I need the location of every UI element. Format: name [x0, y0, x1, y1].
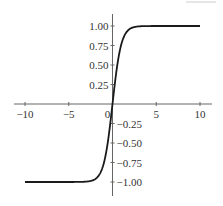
x-tick-label: −10 — [16, 108, 34, 120]
y-tick-label: −0.25 — [117, 118, 143, 130]
x-tick-label: 10 — [195, 108, 207, 120]
tanh-chart: −10−505101.000.750.500.25−0.25−0.50−0.75… — [0, 0, 223, 206]
x-tick-label: 0 — [105, 108, 111, 120]
y-tick-label: −0.50 — [117, 137, 143, 149]
y-tick-label: 0.75 — [89, 40, 109, 52]
y-tick-label: 0.50 — [89, 59, 109, 71]
y-tick-label: 1.00 — [89, 20, 109, 32]
x-tick-label: 5 — [154, 108, 160, 120]
y-tick-label: 0.25 — [89, 79, 109, 91]
y-tick-label: −1.00 — [117, 176, 143, 188]
x-tick-label: −5 — [63, 108, 75, 120]
y-tick-label: −0.75 — [117, 157, 143, 169]
